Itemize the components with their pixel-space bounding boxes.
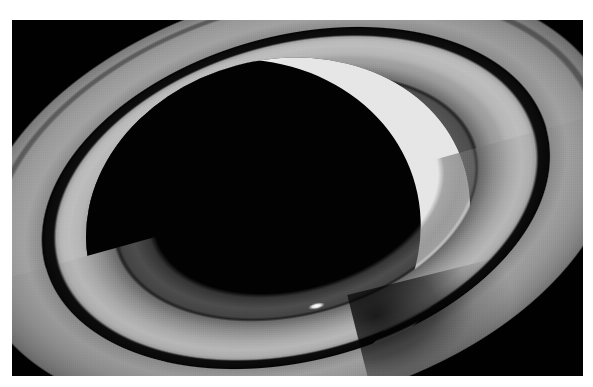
photo-frame [12, 20, 583, 376]
screenshot-root [0, 0, 593, 387]
